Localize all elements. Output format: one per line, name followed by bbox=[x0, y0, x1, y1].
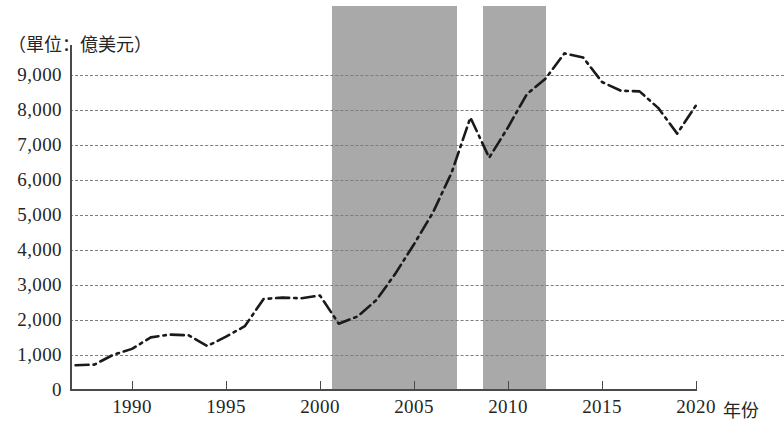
x-tick-label: 2000 bbox=[280, 396, 360, 418]
x-tick-label: 2010 bbox=[468, 396, 548, 418]
unit-note: （單位：億美元） bbox=[8, 30, 152, 56]
x-tick-label: 1990 bbox=[92, 396, 172, 418]
x-axis-title: 年份 bbox=[723, 396, 759, 422]
x-tick-label-layer: 1990 1995 2000 2005 2010 2015 2020 bbox=[0, 0, 784, 444]
x-tick-label: 1995 bbox=[186, 396, 266, 418]
chart-container: 9,000 8,000 7,000 6,000 5,000 4,000 3,00… bbox=[0, 0, 784, 444]
x-tick-label: 2015 bbox=[562, 396, 642, 418]
x-tick-label: 2005 bbox=[374, 396, 454, 418]
